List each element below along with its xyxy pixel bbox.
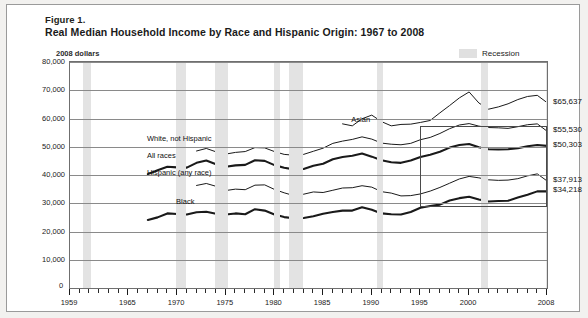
x-axis-tick	[283, 289, 284, 293]
x-axis-tick	[468, 289, 469, 295]
series-line	[197, 174, 547, 196]
x-axis-tick	[264, 289, 265, 293]
x-axis-tick-label: 2000	[460, 298, 477, 307]
x-axis: 1959196519701975198019851990199520002008	[69, 289, 548, 315]
x-axis-tick	[118, 289, 119, 293]
series-value-label: $65,637	[553, 97, 582, 106]
y-axis-tick-label: 70,000	[42, 85, 65, 94]
gridline	[70, 175, 547, 176]
x-axis-tick	[507, 289, 508, 293]
gridline	[70, 62, 547, 63]
x-axis-tick	[127, 289, 128, 295]
x-axis-tick	[332, 289, 333, 293]
series-annotation-label: Asian	[351, 115, 370, 124]
x-axis-tick-label: 1970	[168, 298, 185, 307]
x-axis-tick	[196, 289, 197, 293]
plot-inner	[70, 62, 547, 288]
x-axis-tick-label: 1995	[411, 298, 428, 307]
x-axis-tick	[429, 289, 430, 293]
x-axis-tick	[293, 289, 294, 293]
x-axis-tick	[88, 289, 89, 293]
x-axis-tick	[410, 289, 411, 293]
x-axis-tick-label: 2008	[538, 298, 555, 307]
x-axis-tick	[488, 289, 489, 293]
legend-recession-label: Recession	[482, 49, 519, 58]
x-axis-tick	[234, 289, 235, 293]
series-annotation-label: White, not Hispanic	[147, 134, 212, 143]
x-axis-tick	[312, 289, 313, 293]
x-axis-tick-label: 1985	[314, 298, 331, 307]
x-axis-tick	[371, 289, 372, 295]
gridline	[70, 232, 547, 233]
x-axis-tick	[137, 289, 138, 293]
y-axis-tick-label: 40,000	[42, 170, 65, 179]
gridline	[70, 260, 547, 261]
gridline	[70, 203, 547, 204]
figure-number: Figure 1.	[45, 14, 86, 25]
x-axis-tick	[546, 289, 547, 295]
x-axis-tick	[390, 289, 391, 293]
plot-area	[69, 61, 548, 289]
x-axis-tick	[449, 289, 450, 293]
y-axis-zero-label: 0	[59, 281, 63, 290]
series-annotation-label: Hispanic (any race)	[147, 168, 212, 177]
x-axis-tick	[303, 289, 304, 293]
x-axis-tick	[419, 289, 420, 295]
x-axis-tick	[527, 289, 528, 293]
x-axis-tick	[108, 289, 109, 293]
legend: Recession	[459, 49, 519, 58]
x-axis-tick	[98, 289, 99, 293]
x-axis-tick	[79, 289, 80, 293]
x-axis-tick	[244, 289, 245, 293]
x-axis-tick	[517, 289, 518, 293]
x-axis-tick	[205, 289, 206, 293]
x-axis-tick	[176, 289, 177, 295]
x-axis-tick-label: 1990	[362, 298, 379, 307]
x-axis-tick	[254, 289, 255, 293]
y-axis-tick-label: 30,000	[42, 198, 65, 207]
x-axis-tick	[351, 289, 352, 293]
x-axis-tick	[478, 289, 479, 293]
x-axis-tick-label: 1980	[265, 298, 282, 307]
x-axis-tick	[215, 289, 216, 293]
series-annotation-label: Black	[176, 197, 194, 206]
y-axis-tick-label: 50,000	[42, 141, 65, 150]
x-axis-tick-label: 1975	[216, 298, 233, 307]
series-annotation-label: All races	[147, 151, 176, 160]
x-axis-tick-label: 1965	[119, 298, 136, 307]
x-axis-tick	[342, 289, 343, 293]
recession-swatch-icon	[459, 49, 477, 58]
gridline	[70, 147, 547, 148]
x-axis-tick	[536, 289, 537, 293]
x-axis-tick	[381, 289, 382, 293]
y-axis-tick-label: 80,000	[42, 57, 65, 66]
x-axis-tick	[361, 289, 362, 293]
series-value-label: $55,530	[553, 125, 582, 134]
x-axis-tick	[157, 289, 158, 293]
gridline	[70, 119, 547, 120]
figure-title: Real Median Household Income by Race and…	[45, 26, 424, 38]
series-value-label: $34,218	[553, 185, 582, 194]
y-axis-tick-label: 10,000	[42, 254, 65, 263]
x-axis-tick	[497, 289, 498, 293]
x-axis-tick	[322, 289, 323, 295]
series-value-label: $37,913	[553, 175, 582, 184]
gridline	[70, 90, 547, 91]
y-axis-tick-label: 20,000	[42, 226, 65, 235]
x-axis-tick	[186, 289, 187, 293]
series-value-label: $50,303	[553, 140, 582, 149]
x-axis-tick	[147, 289, 148, 293]
x-axis-tick	[400, 289, 401, 293]
y-axis-tick-label: 60,000	[42, 113, 65, 122]
x-axis-tick	[439, 289, 440, 293]
x-axis-tick	[458, 289, 459, 293]
x-axis-tick-label: 1959	[61, 298, 78, 307]
x-axis-tick	[273, 289, 274, 295]
x-axis-tick	[166, 289, 167, 293]
y-axis: 10,00020,00030,00040,00050,00060,00070,0…	[15, 61, 65, 289]
series-line	[343, 92, 547, 126]
x-axis-tick	[69, 289, 70, 295]
figure-card: Figure 1. Real Median Household Income b…	[6, 4, 580, 312]
x-axis-tick	[225, 289, 226, 295]
